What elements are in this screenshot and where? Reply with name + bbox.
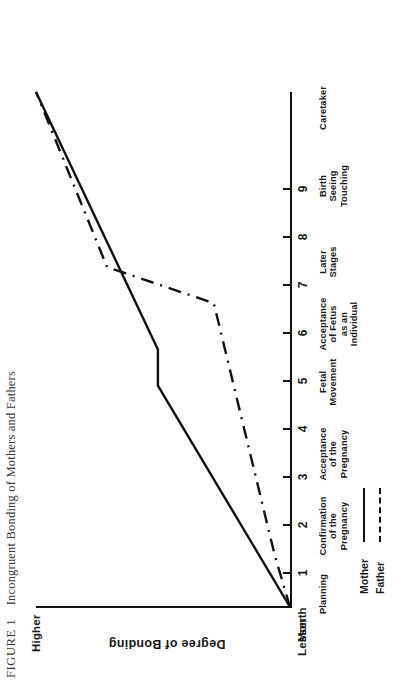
series-line-father — [36, 92, 290, 607]
legend-item-mother: Mother — [356, 488, 372, 594]
legend-item-father: Father — [372, 488, 388, 594]
series-line-mother — [36, 92, 290, 607]
legend-label-father: Father — [374, 546, 386, 594]
legend-label-mother: Mother — [358, 546, 370, 594]
legend: Mother Father — [356, 488, 388, 594]
series-lines — [0, 0, 398, 686]
figure-canvas: FIGURE 1 Incongruent Bonding of Mothers … — [0, 0, 398, 686]
scanned-figure-page: FIGURE 1 Incongruent Bonding of Mothers … — [0, 0, 398, 686]
plot-area: Higher Lesser Degree of Bonding Month 12… — [0, 0, 398, 686]
legend-swatch-mother — [363, 488, 365, 542]
legend-swatch-father — [379, 488, 381, 542]
